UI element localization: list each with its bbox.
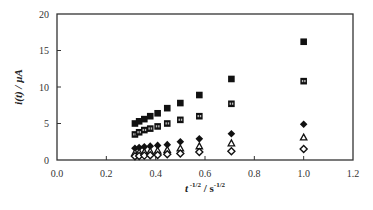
y-tick-label: 10 — [39, 82, 49, 93]
marker-diamond-open — [228, 148, 235, 155]
marker-diamond-open — [196, 148, 203, 155]
series-filled-square — [132, 38, 307, 126]
data-series — [131, 38, 307, 159]
marker-square-filled — [141, 116, 148, 123]
marker-square-half — [164, 120, 171, 127]
marker-square-half — [177, 117, 184, 124]
marker-square-filled — [228, 76, 235, 83]
plot-frame — [57, 14, 353, 160]
x-tick-label: 1.0 — [297, 168, 310, 179]
y-axis-title: i(t) / µA — [12, 69, 25, 105]
marker-square-half — [196, 113, 203, 120]
chart: 05101520 0.00.20.40.60.81.01.2 t -1/2 / … — [0, 0, 373, 210]
y-tick-label: 15 — [39, 45, 49, 56]
marker-diamond-filled — [300, 120, 308, 128]
marker-square-filled — [154, 110, 161, 117]
marker-square-filled — [177, 100, 184, 107]
marker-square-half — [147, 125, 154, 132]
marker-square-filled — [147, 113, 154, 120]
marker-square-half — [228, 100, 235, 107]
x-tick-label: 0.0 — [51, 168, 64, 179]
y-tick-label: 5 — [44, 118, 49, 129]
x-tick-label: 0.6 — [199, 168, 212, 179]
marker-square-half — [300, 78, 307, 85]
y-axis-ticks: 05101520 — [39, 9, 61, 166]
marker-diamond-open — [300, 146, 307, 153]
series-half-filled-square — [132, 78, 307, 138]
x-tick-label: 0.4 — [149, 168, 162, 179]
marker-square-filled — [164, 105, 171, 112]
y-tick-label: 20 — [39, 9, 49, 20]
x-tick-label: 0.2 — [100, 168, 113, 179]
marker-triangle-open — [300, 134, 306, 140]
x-tick-label: 0.8 — [248, 168, 261, 179]
marker-diamond-filled — [228, 130, 236, 138]
x-axis-title: t -1/2 / s-1/2 — [185, 181, 226, 194]
x-tick-label: 1.2 — [347, 168, 360, 179]
marker-square-filled — [196, 92, 203, 99]
marker-triangle-open — [228, 140, 234, 146]
marker-square-filled — [300, 38, 307, 45]
marker-square-half — [141, 127, 148, 134]
y-tick-label: 0 — [44, 155, 49, 166]
marker-square-half — [154, 123, 161, 130]
